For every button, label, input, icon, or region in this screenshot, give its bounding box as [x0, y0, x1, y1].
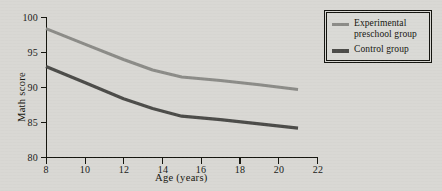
legend-swatch-control-icon	[332, 49, 349, 53]
y-axis-ticks	[41, 18, 47, 158]
y-axis-title: Math score	[16, 72, 27, 122]
x-axis-title: Age (years)	[155, 172, 208, 183]
legend-label-experimental: Experimental preschool group	[354, 18, 425, 40]
x-tick-label-10: 10	[80, 164, 90, 175]
math-score-line-chart: 80 85 90 95 100 8 10 12 14 16 18 20 22 M…	[0, 0, 442, 191]
series-line-experimental-preschool-group	[46, 29, 298, 90]
legend-label-control: Control group	[354, 44, 409, 55]
x-tick-label-12: 12	[119, 164, 129, 175]
y-tick-label-100: 100	[12, 12, 38, 23]
y-tick-label-80: 80	[12, 152, 38, 163]
legend-item-control-group: Control group	[332, 44, 425, 55]
legend-item-experimental-preschool-group: Experimental preschool group	[332, 18, 425, 40]
x-tick-label-20: 20	[274, 164, 284, 175]
x-tick-label-18: 18	[235, 164, 245, 175]
y-tick-label-95: 95	[12, 47, 38, 58]
x-axis-ticks	[47, 158, 318, 164]
chart-legend: Experimental preschool group Control gro…	[326, 12, 430, 61]
x-tick-label-8: 8	[43, 164, 48, 175]
legend-swatch-experimental-icon	[332, 23, 349, 26]
x-tick-label-22: 22	[313, 164, 323, 175]
